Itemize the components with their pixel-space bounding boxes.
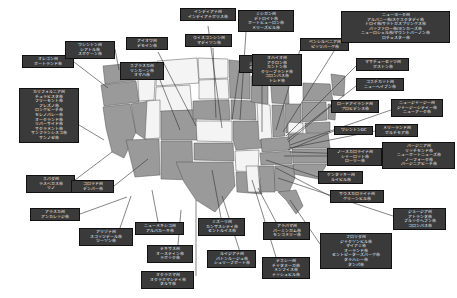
callout-city-name: ピッツバーグ市 [303, 45, 346, 50]
callout-city-name: ポートランド市 [25, 62, 71, 67]
callout-california[interactable]: カリフォルニア州チュラビスタ市フリーモント市フレズノ市ロングビーチ市モレノバレー… [19, 88, 79, 143]
state-northcarolina [292, 149, 331, 163]
state-florida [278, 190, 303, 214]
callout-alaska[interactable]: アラスカ州アンカレッジ市 [30, 208, 80, 221]
callout-city-name: シュリーブポート市 [210, 261, 253, 266]
callout-city-name: インディアナポリス市 [183, 15, 233, 20]
callout-ohio[interactable]: オハイオ州アクロン市カントン市クリーブランド市コロンバス市トレド市 [252, 54, 302, 86]
callout-virginia[interactable]: バージニア州リッチモンド市ニューポートニューズ市ノーフォーク市バージニアビーチ市 [382, 142, 455, 169]
state-maryland-dc [305, 122, 330, 133]
callout-city-name: トレド市 [255, 79, 299, 84]
callout-state-name: ワシントンDC [337, 128, 370, 133]
callout-newyork[interactable]: ニューヨーク州アルバニー市/スケネクタディ市トロイ市/サラトガスプリングス市バッ… [341, 11, 450, 43]
callout-city-name: ボストン市 [359, 65, 406, 70]
state-arizona [126, 139, 160, 177]
callout-washingtondc[interactable]: ワシントンDC [334, 126, 373, 135]
state-westvirginia [288, 122, 303, 133]
state-illinois [257, 103, 272, 140]
callout-city-name: メリーズビル市 [241, 26, 291, 31]
callout-newmexico[interactable]: ニューメキシコ州アルバカーキ市 [135, 222, 184, 235]
callout-texas[interactable]: テキサス州オースティン市ラボック市 [147, 245, 193, 263]
callout-michigan[interactable]: ミシガン州デトロイト市ポートヒューロン市メリーズビル市 [238, 10, 294, 32]
callout-city-name: バージニアビーチ市 [385, 162, 452, 167]
callout-city-name: モンゴメリー市 [266, 233, 307, 238]
callout-kentucky[interactable]: ケンタッキー州ルイビル市 [318, 171, 363, 184]
state-iowa [231, 100, 256, 120]
callout-city-name: ロチェスター市 [344, 36, 447, 41]
callout-city-name: ローリー市 [330, 159, 379, 164]
callout-indiana[interactable]: インディアナ州インディアナポリス市 [180, 8, 236, 21]
callout-city-name: アンカレッジ市 [33, 215, 77, 220]
state-texas [176, 162, 235, 212]
callout-rhodeisland[interactable]: ロードアイランド州プロビデンス市 [331, 100, 379, 113]
state-kansas [196, 121, 232, 142]
callout-city-name: スポケーン市 [68, 52, 112, 57]
callout-tennessee[interactable]: テネシー州チャタヌーガ市メンフィス市ナッシュビル市 [262, 257, 310, 279]
callout-arizona[interactable]: アリゾナ州スコッツデール市ツーソン市 [79, 228, 133, 246]
callout-city-name: リノ [29, 186, 72, 191]
callout-city-name: プロビデンス市 [334, 107, 376, 112]
state-oklahoma [194, 143, 234, 161]
callout-city-name: ニューヘイブン市 [359, 85, 401, 90]
state-missouri [233, 121, 262, 150]
state-oregon [101, 81, 139, 106]
callout-massachusetts[interactable]: マサチューセッツ州ボストン市 [356, 58, 409, 71]
callout-city-name: ツーソン市 [82, 239, 130, 244]
callout-iowa[interactable]: アイオワ州デモイン市 [126, 37, 168, 50]
state-northdakota [198, 58, 228, 79]
us-city-map-page: オレゴン州ポートランド市ワシントン州シアトル市スポケーン市カリフォルニア州チュラ… [0, 0, 457, 298]
callout-city-name: タルサ市 [144, 282, 191, 287]
callout-city-name: セントルイス市 [201, 229, 242, 234]
callout-northcarolina[interactable]: ノースカロライナ州シャーロット市ローリー市 [327, 148, 382, 166]
state-virginia [288, 133, 330, 148]
callout-louisiana[interactable]: ルイジアナ州バトンルージュ市シュリーブポート市 [207, 250, 256, 268]
callout-connecticut[interactable]: コネチカット州ニューヘイブン市 [356, 78, 404, 91]
callout-florida[interactable]: フロリダ州ジャクソンビル市マイアミ市オーランド市セントピーターズバーグ市タラハシ… [320, 233, 392, 269]
callout-georgia[interactable]: ジョージア州アトランタ市ブルックヘブン市コロンバス市 [393, 208, 446, 230]
callout-city-name: アルバカーキ市 [138, 229, 181, 234]
callout-city-name: サンノゼ市 [22, 136, 76, 141]
state-alabama [259, 166, 275, 192]
us-map-states [101, 58, 345, 214]
state-newyork [303, 83, 333, 101]
callout-washington[interactable]: ワシントン州シアトル市スポケーン市 [65, 41, 115, 59]
state-nebraska [193, 100, 230, 120]
callout-city-name: ニューアーク市 [394, 110, 440, 115]
state-mississippi [246, 166, 260, 192]
callout-missouri[interactable]: ミズーリ州カンザスシティ市セントルイス市 [198, 218, 245, 236]
callout-maryland[interactable]: メリーランド州ボルチモア市 [375, 124, 418, 137]
callout-wisconsin[interactable]: ウィスコンシン州マディソン市 [185, 34, 232, 47]
callout-alabama[interactable]: アラバマ州バーミンガム市モンゴメリー市 [263, 222, 310, 240]
callout-city-name: オマハ市 [123, 73, 161, 78]
callout-colorado[interactable]: コロラド州デンバー市 [71, 180, 114, 193]
state-colorado [161, 110, 197, 140]
callout-city-name: タンパ市 [323, 263, 389, 268]
callout-city-name: ルイビル市 [321, 178, 360, 183]
callout-southcarolina[interactable]: サウスカロライナ州グリーンビル市 [330, 190, 384, 203]
state-georgia [274, 165, 295, 194]
state-tennessee [260, 151, 292, 165]
callout-city-name: デンバー市 [74, 187, 111, 192]
state-southdakota [199, 79, 229, 99]
state-indiana [272, 105, 285, 137]
callout-newjersey[interactable]: ニュージャージー州ジャージーシティー市ニューアーク市 [391, 99, 443, 117]
state-utah [145, 100, 160, 139]
callout-nevada[interactable]: ネバダ州ラスベガス市リノ [26, 175, 75, 193]
callout-city-name: コロンバス市 [396, 224, 443, 229]
state-pennsylvania [302, 102, 327, 122]
callout-oklahoma[interactable]: オクラホマ州オクラホマシティ市タルサ市 [141, 271, 194, 289]
state-wyoming [155, 85, 192, 112]
callout-city-name: ラボック市 [150, 256, 190, 261]
callout-city-name: ボルチモア市 [378, 131, 415, 136]
state-kentucky [261, 137, 290, 152]
callout-nebraska[interactable]: ネブラスカ州リンカーン市オマハ市 [120, 62, 164, 80]
callout-city-name: デモイン市 [129, 44, 165, 49]
callout-city-name: グリーンビル市 [333, 197, 381, 202]
callout-city-name: マディソン市 [188, 41, 229, 46]
callout-city-name: ナッシュビル市 [265, 273, 307, 278]
state-newengland [331, 74, 345, 96]
